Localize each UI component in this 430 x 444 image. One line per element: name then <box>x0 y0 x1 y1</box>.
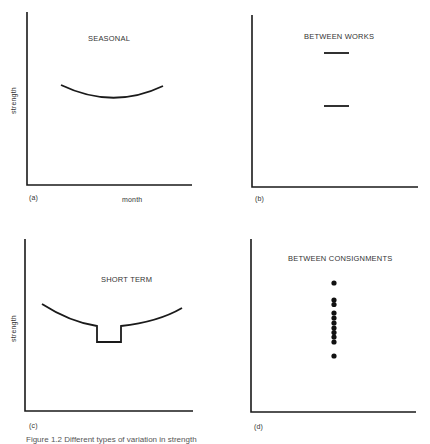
panel-b-tag: (b) <box>255 195 264 202</box>
panel-d-title: BETWEEN CONSIGNMENTS <box>288 254 392 263</box>
short-term-curve <box>42 304 182 342</box>
panel-c-title: SHORT TERM <box>101 275 152 284</box>
panel-b-title: BETWEEN WORKS <box>304 32 374 41</box>
panel-d-tag: (d) <box>254 423 263 430</box>
panel-a-ylabel: strength <box>10 87 17 114</box>
panel-a-xlabel: month <box>122 196 142 203</box>
figure-caption: Figure 1.2 Different types of variation … <box>26 435 197 444</box>
panel-a-title: SEASONAL <box>88 34 130 43</box>
seasonal-curve <box>61 85 163 98</box>
panel-c-ylabel: strength <box>10 315 17 342</box>
axes-c <box>25 239 193 411</box>
consignment-points <box>331 280 336 358</box>
panel-a-tag: (a) <box>29 194 38 201</box>
panel-c-tag: (c) <box>29 422 38 429</box>
